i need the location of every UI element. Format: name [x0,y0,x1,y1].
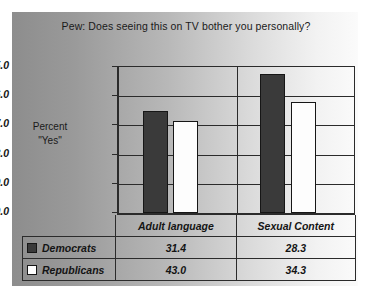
y-tick-label: 0.0 [0,205,9,217]
chart-title: Pew: Does seeing this on TV bother you p… [54,19,318,33]
y-tick-label: 45.0 [0,59,9,71]
bar-democrats-adult-language [143,111,168,213]
chart-container: Pew: Does seeing this on TV bother you p… [12,12,358,286]
y-tick-label: 9.0 [0,176,9,188]
y-axis-label-line1: Percent [14,120,86,134]
y-tick-label: 18.0 [0,147,9,159]
legend-label-democrats: Democrats [42,242,96,254]
legend-swatch-icon-republicans [27,265,37,275]
y-tick-label: 36.0 [0,88,9,100]
table-row-categories: Adult language Sexual Content [23,215,356,237]
category-separator [237,67,238,213]
legend-label-republicans: Republicans [42,264,104,276]
table-row: Republicans 43.0 34.3 [23,259,356,281]
bar-democrats-sexual-content [260,74,285,214]
legend-item-republicans: Republicans [23,259,116,281]
y-tick-label: 27.0 [0,117,9,129]
table-corner-blank [23,215,116,237]
value-democrats-adult-language: 31.4 [116,237,236,259]
value-democrats-sexual-content: 28.3 [236,237,355,259]
category-header-0: Adult language [116,215,236,237]
value-republicans-adult-language: 43.0 [116,259,236,281]
bar-republicans-adult-language [173,121,198,213]
y-axis-label-line2: "Yes" [14,134,86,148]
y-axis-label: Percent "Yes" [14,120,86,148]
bar-republicans-sexual-content [291,102,316,213]
legend-swatch-icon-democrats [27,243,37,253]
legend-item-democrats: Democrats [23,237,116,259]
data-table: Adult language Sexual Content Democrats … [22,215,356,281]
value-republicans-sexual-content: 34.3 [236,259,355,281]
table-row: Democrats 31.4 28.3 [23,237,356,259]
plot-area [117,66,355,215]
category-header-1: Sexual Content [236,215,355,237]
